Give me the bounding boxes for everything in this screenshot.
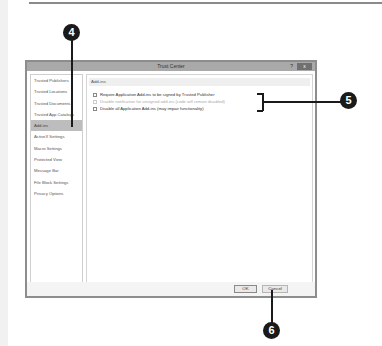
checkbox-disable-notification (93, 100, 97, 104)
top-rule-divider (29, 2, 382, 4)
section-header-add-ins: Add-ins (89, 78, 310, 86)
callout-6-leader-line (271, 290, 273, 323)
trust-center-dialog: Trust Center ? x Trusted Publishers Trus… (25, 60, 317, 298)
sidebar-item-trusted-publishers[interactable]: Trusted Publishers (31, 75, 82, 86)
ok-button[interactable]: OK (234, 285, 257, 293)
trust-center-sidebar: Trusted Publishers Trusted Locations Tru… (30, 74, 83, 284)
sidebar-item-protected-view[interactable]: Protected View (31, 154, 82, 165)
option-require-signed-label: Require Application Add-ins to be signed… (100, 92, 215, 97)
callout-6-badge: 6 (263, 322, 280, 339)
checkbox-require-signed[interactable] (93, 93, 97, 97)
checkbox-disable-all-addins[interactable] (93, 107, 97, 111)
option-disable-notification: Disable notification for unsigned add-in… (93, 98, 225, 105)
sidebar-item-file-block-settings[interactable]: File Block Settings (31, 177, 82, 188)
sidebar-item-activex-settings[interactable]: ActiveX Settings (31, 131, 82, 142)
option-require-signed[interactable]: Require Application Add-ins to be signed… (93, 91, 215, 98)
sidebar-item-trusted-documents[interactable]: Trusted Documents (31, 98, 82, 109)
sidebar-item-macro-settings[interactable]: Macro Settings (31, 143, 82, 154)
sidebar-item-trusted-locations[interactable]: Trusted Locations (31, 86, 82, 97)
sidebar-item-message-bar[interactable]: Message Bar (31, 165, 82, 176)
option-disable-notification-label: Disable notification for unsigned add-in… (100, 99, 225, 104)
option-disable-all-addins-label: Disable all Application Add-ins (may imp… (100, 106, 204, 111)
help-icon[interactable]: ? (290, 62, 293, 71)
callout-5-leader-line (263, 101, 341, 103)
callout-5-bracket-top (257, 93, 263, 95)
sidebar-item-trusted-app-catalogs[interactable]: Trusted App Catalogs (31, 109, 82, 120)
close-icon[interactable]: x (297, 63, 312, 70)
option-disable-all-addins[interactable]: Disable all Application Add-ins (may imp… (93, 105, 204, 112)
callout-4-leader-line (71, 40, 73, 127)
cancel-button[interactable]: Cancel (262, 285, 288, 293)
callout-4-badge: 4 (63, 24, 80, 41)
callout-5-bracket-bottom (257, 110, 263, 112)
sidebar-item-privacy-options[interactable]: Privacy Options (31, 188, 82, 199)
callout-5-badge: 5 (340, 92, 357, 109)
page-margin-strip (0, 0, 8, 346)
add-ins-panel: Add-ins Require Application Add-ins to b… (86, 74, 313, 284)
sidebar-item-add-ins[interactable]: Add-ins (31, 120, 82, 131)
